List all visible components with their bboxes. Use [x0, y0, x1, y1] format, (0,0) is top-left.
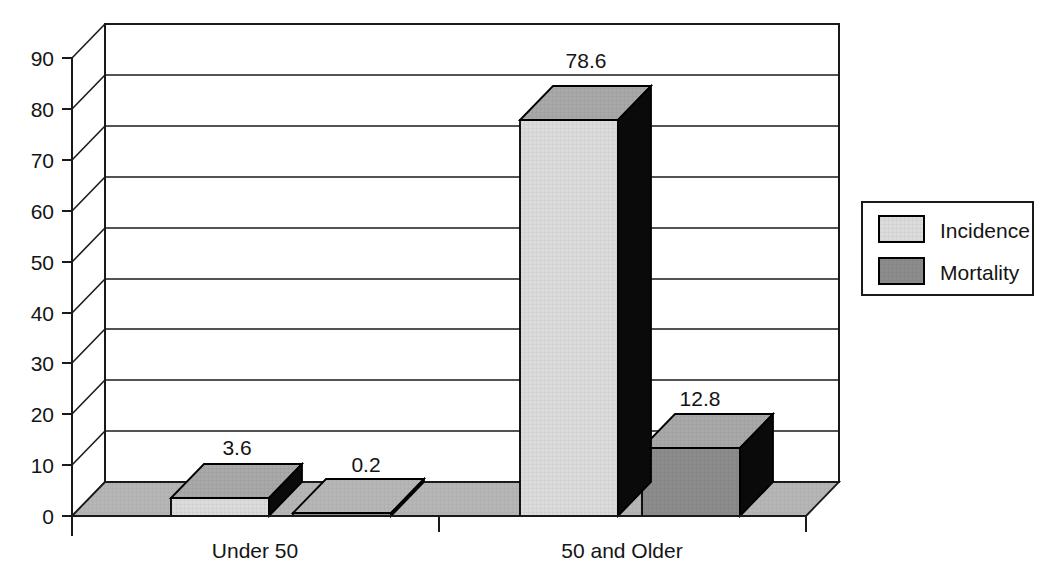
legend-swatch-mortality — [879, 258, 924, 284]
x-axis-category-labels: Under 50 50 and Older — [212, 539, 683, 562]
bar-older-mortality[interactable] — [642, 414, 773, 516]
bar-chart: 90 80 70 60 50 40 30 20 10 0 — [0, 0, 1055, 566]
y-tick-60: 60 — [31, 200, 54, 223]
y-tick-20: 20 — [31, 403, 54, 426]
x-axis — [72, 516, 806, 532]
category-label-under-50: Under 50 — [212, 539, 298, 562]
y-tick-50: 50 — [31, 251, 54, 274]
y-tick-0: 0 — [42, 505, 54, 528]
legend-label-incidence: Incidence — [940, 219, 1030, 242]
legend-label-mortality: Mortality — [940, 261, 1020, 284]
chart-container: 90 80 70 60 50 40 30 20 10 0 — [0, 0, 1055, 566]
y-axis-ticks — [62, 58, 72, 536]
y-tick-70: 70 — [31, 149, 54, 172]
data-label-under50-mortality: 0.2 — [351, 453, 380, 476]
y-tick-10: 10 — [31, 454, 54, 477]
legend: Incidence Mortality — [862, 202, 1033, 295]
y-tick-90: 90 — [31, 47, 54, 70]
y-tick-40: 40 — [31, 302, 54, 325]
bar-older-incidence[interactable] — [520, 86, 651, 516]
plot-left-wall — [72, 24, 105, 516]
data-label-under50-incidence: 3.6 — [222, 436, 251, 459]
y-axis-tick-labels: 90 80 70 60 50 40 30 20 10 0 — [31, 47, 54, 528]
legend-swatch-incidence — [879, 216, 924, 242]
data-label-older-incidence: 78.6 — [566, 49, 607, 72]
category-label-50-and-older: 50 and Older — [561, 539, 682, 562]
y-tick-80: 80 — [31, 98, 54, 121]
data-label-older-mortality: 12.8 — [680, 387, 721, 410]
y-tick-30: 30 — [31, 352, 54, 375]
